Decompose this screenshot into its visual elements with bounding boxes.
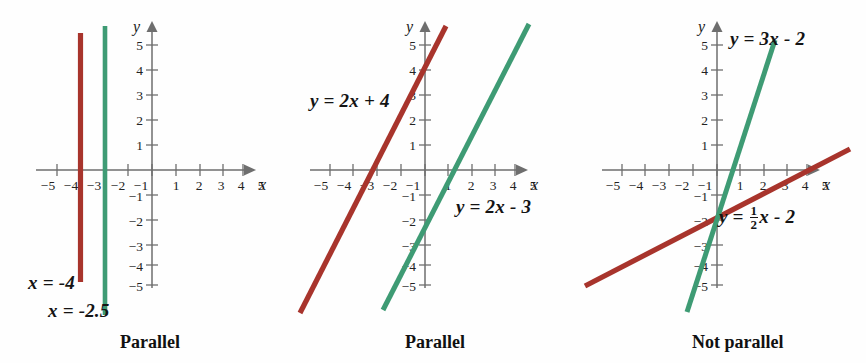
panel-middle: −5 −4 −3 −2 −1 1 2 3 4 5 5 4 3 2 1 −1 −2…: [290, 0, 578, 363]
svg-text:−5: −5: [129, 279, 144, 294]
caption-right: Not parallel: [692, 332, 784, 353]
y-axis-label: y: [131, 18, 141, 36]
panel-left: −5 −4 −3 −2 −1 1 2 3 4 5 5 4 3 2 1 −1 −2…: [0, 0, 290, 363]
svg-text:−4: −4: [629, 178, 644, 193]
y-tick-labels: 5 4 3 2 1 −1 −2 −3 −4 −5: [129, 38, 144, 294]
svg-text:3: 3: [218, 178, 225, 193]
y-axis: [712, 21, 723, 288]
svg-text:−5: −5: [41, 178, 56, 193]
svg-text:−3: −3: [652, 178, 667, 193]
equation-label-green-left: x = -2.5: [48, 300, 110, 322]
svg-text:3: 3: [490, 178, 497, 193]
y-axis-label: y: [696, 18, 706, 36]
svg-text:−5: −5: [606, 178, 621, 193]
svg-text:3: 3: [136, 88, 143, 103]
svg-text:−3: −3: [87, 178, 102, 193]
svg-text:2: 2: [701, 113, 708, 128]
svg-text:1: 1: [173, 178, 180, 193]
equation-label-red-right: y = 12x - 2: [719, 205, 795, 233]
line-y-equals-3x-minus-2: [687, 40, 775, 312]
svg-text:−5: −5: [402, 279, 417, 294]
svg-text:−1: −1: [129, 189, 143, 204]
svg-text:−3: −3: [129, 239, 144, 254]
svg-text:−1: −1: [694, 189, 708, 204]
caption-left: Parallel: [120, 332, 180, 353]
equation-label-green-right: y = 3x - 2: [730, 28, 805, 50]
svg-text:−1: −1: [402, 189, 416, 204]
fraction-one-half: 12: [750, 204, 759, 232]
svg-text:4: 4: [701, 63, 708, 78]
fraction-denominator: 2: [750, 217, 759, 231]
equation-red-suffix: x - 2: [759, 206, 795, 227]
svg-text:4: 4: [136, 63, 143, 78]
x-axis-label: x: [258, 176, 266, 193]
svg-text:5: 5: [409, 38, 416, 53]
line-y-equals-2x-minus-3: [383, 24, 529, 310]
svg-text:2: 2: [409, 113, 416, 128]
svg-text:1: 1: [701, 138, 708, 153]
svg-text:−5: −5: [314, 178, 329, 193]
y-axis-label: y: [404, 18, 414, 36]
svg-text:−4: −4: [64, 178, 79, 193]
svg-text:1: 1: [737, 178, 744, 193]
y-axis: [147, 21, 158, 288]
svg-text:3: 3: [701, 88, 708, 103]
svg-text:4: 4: [802, 178, 809, 193]
svg-text:2: 2: [196, 178, 203, 193]
svg-text:−2: −2: [111, 178, 125, 193]
panel-left-plot: −5 −4 −3 −2 −1 1 2 3 4 5 5 4 3 2 1 −1 −2…: [0, 0, 290, 363]
svg-text:5: 5: [701, 38, 708, 53]
svg-text:2: 2: [136, 113, 143, 128]
svg-text:−2: −2: [402, 214, 416, 229]
equation-label-green-middle: y = 2x - 3: [456, 196, 531, 218]
panel-middle-plot: −5 −4 −3 −2 −1 1 2 3 4 5 5 4 3 2 1 −1 −2…: [290, 0, 578, 363]
panel-right: −5 −4 −3 −2 −1 1 2 3 4 5 5 4 3 2 1 −1 −2…: [578, 0, 866, 363]
svg-text:5: 5: [136, 38, 143, 53]
equation-label-red-left: x = -4: [28, 272, 75, 294]
figure-root: −5 −4 −3 −2 −1 1 2 3 4 5 5 4 3 2 1 −1 −2…: [0, 0, 866, 363]
equation-label-red-middle: y = 2x + 4: [310, 90, 390, 112]
equation-red-prefix: y =: [719, 206, 749, 227]
x-axis-label: x: [822, 176, 830, 193]
svg-text:4: 4: [238, 178, 245, 193]
svg-text:−2: −2: [383, 178, 397, 193]
panel-right-plot: −5 −4 −3 −2 −1 1 2 3 4 5 5 4 3 2 1 −1 −2…: [578, 0, 866, 363]
svg-text:−2: −2: [129, 214, 143, 229]
svg-text:−4: −4: [337, 178, 352, 193]
svg-text:4: 4: [510, 178, 517, 193]
svg-text:−4: −4: [129, 259, 144, 274]
svg-text:−2: −2: [675, 178, 689, 193]
fraction-numerator: 1: [750, 204, 759, 217]
svg-text:2: 2: [468, 178, 475, 193]
x-axis-label: x: [530, 176, 538, 193]
svg-text:1: 1: [409, 138, 416, 153]
caption-middle: Parallel: [405, 332, 465, 353]
svg-text:1: 1: [136, 138, 143, 153]
svg-text:4: 4: [409, 63, 416, 78]
